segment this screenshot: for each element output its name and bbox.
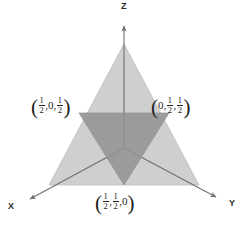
paren-close-icon: )	[64, 95, 71, 119]
y-axis-label: Y	[229, 199, 235, 208]
vertex-label-bottom: (12,12,0)	[95, 192, 135, 214]
paren-open-icon: (	[95, 191, 102, 215]
fraction-denominator: 2	[39, 106, 45, 115]
figure-root: Z X Y (12,0,12) (0,12,12) (12,12,0)	[0, 0, 246, 226]
z-axis-label: Z	[121, 2, 127, 11]
fraction-denominator: 2	[57, 106, 63, 115]
fraction-denominator: 2	[103, 202, 109, 211]
fraction-one-half: 12	[167, 96, 173, 114]
fraction-denominator: 2	[113, 202, 119, 211]
vertex-label-left: (12,0,12)	[31, 96, 71, 118]
paren-open-icon: (	[31, 95, 38, 119]
fraction-one-half: 12	[39, 96, 45, 114]
fraction-denominator: 2	[177, 106, 183, 115]
fraction-one-half: 12	[177, 96, 183, 114]
x-axis-label: X	[8, 202, 14, 211]
vertex-label-right: (0,12,12)	[151, 96, 191, 118]
paren-close-icon: )	[184, 95, 191, 119]
paren-close-icon: )	[128, 191, 135, 215]
fraction-denominator: 2	[167, 106, 173, 115]
fraction-one-half: 12	[113, 192, 119, 210]
fraction-one-half: 12	[103, 192, 109, 210]
paren-open-icon: (	[151, 95, 158, 119]
fraction-one-half: 12	[57, 96, 63, 114]
